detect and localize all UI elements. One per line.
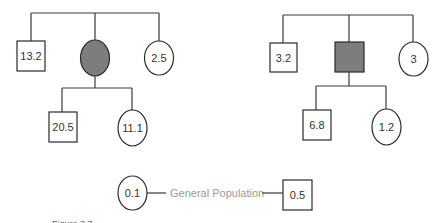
right-proband-affected-male bbox=[335, 42, 364, 72]
affected-male-square-icon bbox=[335, 42, 364, 72]
general-population-label: General Population bbox=[170, 187, 264, 199]
left-proband-affected-female bbox=[81, 40, 110, 76]
pedigree-diagram: 13.2 2.5 20.5 11.1 3. bbox=[0, 0, 440, 223]
right-child-female: 1.2 bbox=[372, 109, 401, 145]
right-sibling-male: 3.2 bbox=[270, 43, 297, 72]
node-label: 13.2 bbox=[20, 50, 41, 62]
node-label: 6.8 bbox=[309, 119, 324, 131]
node-label: 0.1 bbox=[125, 187, 140, 199]
node-label: 0.5 bbox=[290, 189, 305, 201]
left-child-male: 20.5 bbox=[49, 112, 77, 142]
node-label: 3.2 bbox=[276, 52, 291, 64]
node-label: 11.1 bbox=[122, 122, 143, 134]
node-label: 3 bbox=[410, 53, 416, 65]
left-sibling-male: 13.2 bbox=[17, 41, 45, 71]
left-child-female: 11.1 bbox=[118, 110, 147, 146]
general-population-legend: 0.1 General Population 0.5 bbox=[118, 176, 312, 210]
affected-female-circle-icon bbox=[81, 40, 110, 76]
right-child-male: 6.8 bbox=[303, 110, 331, 140]
right-pedigree: 3.2 3 6.8 1.2 bbox=[270, 15, 428, 145]
node-label: 1.2 bbox=[379, 121, 394, 133]
figure-caption: Figure 3.7 bbox=[52, 219, 93, 223]
right-sibling-female: 3 bbox=[399, 42, 428, 76]
node-label: 2.5 bbox=[151, 52, 166, 64]
left-pedigree: 13.2 2.5 20.5 11.1 bbox=[17, 13, 174, 146]
left-sibling-female: 2.5 bbox=[145, 41, 174, 75]
node-label: 20.5 bbox=[52, 121, 73, 133]
